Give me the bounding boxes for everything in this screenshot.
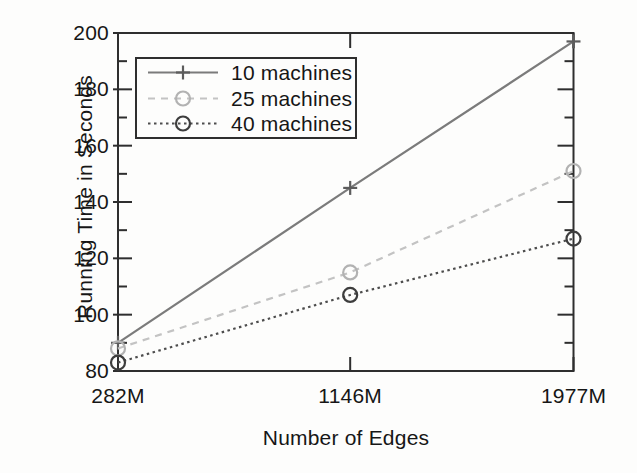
chart-figure: Running Time in Seconds Number of Edges … [0,0,637,473]
y-tick-label: 120 [57,247,109,269]
legend-line-sample-40-machines-icon [144,111,222,136]
x-axis-title: Number of Edges [263,426,429,449]
legend-row-25-machines: 25 machines [137,86,355,111]
series-line-25-machines [118,171,574,348]
y-tick-label: 160 [57,135,109,157]
legend-line-sample-10-machines-icon [144,60,222,85]
y-tick-label: 80 [57,360,109,382]
legend-row-40-machines: 40 machines [137,111,355,136]
legend-label-40-machines: 40 machines [231,112,352,135]
legend-row-10-machines: 10 machines [137,60,355,85]
legend: 10 machines 25 machines 40 machines [135,57,357,139]
legend-label-25-machines: 25 machines [231,87,352,110]
y-tick-label: 200 [57,22,109,44]
x-tick-label: 282M [68,385,168,407]
legend-line-sample-25-machines-icon [144,86,222,111]
y-tick-label: 180 [57,78,109,100]
y-tick-label: 100 [57,304,109,326]
data-point-circle [343,265,357,279]
x-tick-label: 1977M [524,385,624,407]
x-tick-label: 1146M [300,385,400,407]
legend-label-10-machines: 10 machines [231,61,352,84]
y-tick-label: 140 [57,191,109,213]
